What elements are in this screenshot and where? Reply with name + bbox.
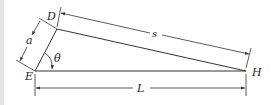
label-E: E [24, 70, 33, 83]
label-a: a [26, 34, 33, 47]
dimension-a [16, 18, 57, 71]
diagram-canvas: D E H a s L θ [0, 0, 275, 105]
label-L: L [136, 82, 144, 95]
label-theta: θ [54, 52, 61, 65]
label-s: s [152, 28, 157, 39]
angle-arc-theta [45, 53, 52, 69]
label-H: H [251, 66, 262, 79]
geometry-figure: D E H a s L θ [0, 0, 275, 105]
label-D: D [46, 10, 56, 23]
